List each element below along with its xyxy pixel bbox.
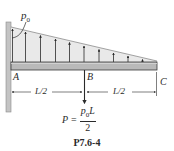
load-intensity-subscript: 0 (27, 16, 31, 24)
equation-equals: = (71, 114, 77, 125)
fraction-denominator: 2 (85, 122, 90, 133)
dimension-label-bc: L/2 (113, 87, 125, 96)
fixed-wall-support (6, 22, 11, 112)
figure-caption: P7.6-4 (0, 137, 174, 148)
equation-fraction: p0L 2 (80, 105, 96, 133)
point-label-a: A (13, 72, 19, 82)
point-label-b: B (87, 72, 93, 82)
fraction-numerator: p0L (80, 105, 96, 122)
equation-lhs: P (62, 114, 68, 125)
point-label-c: C (160, 77, 167, 87)
dimension-label-ab: L/2 (35, 87, 47, 96)
load-intensity-label: p0 (21, 10, 30, 24)
point-load-equation: P = p0L 2 (62, 105, 96, 133)
